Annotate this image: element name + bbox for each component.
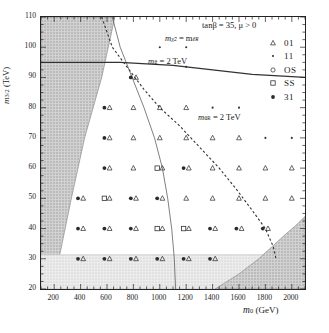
marker-01	[239, 226, 244, 231]
marker-01	[266, 226, 271, 231]
x-axis-label: m0 (GeV)	[243, 305, 278, 315]
legend-item: 31	[267, 90, 325, 104]
marker-01	[184, 135, 189, 140]
marker-SS	[181, 226, 185, 230]
marker-11	[159, 46, 161, 48]
y-axis-label-sub: 3/2	[3, 89, 10, 97]
x-tick-label: 800	[122, 293, 142, 302]
marker-01	[210, 166, 215, 171]
marker-31	[208, 227, 212, 231]
marker-01	[131, 166, 136, 171]
legend-item: SS	[267, 77, 325, 91]
legend-marker-OS	[267, 64, 284, 76]
marker-11	[264, 137, 266, 139]
marker-01	[210, 196, 215, 201]
marker-01	[81, 196, 86, 201]
marker-31	[182, 257, 186, 261]
marker-11	[291, 137, 293, 139]
x-axis-label-sub: 0	[250, 307, 253, 314]
legend-label: 01	[284, 38, 294, 48]
marker-01	[134, 196, 139, 201]
marker-01	[289, 166, 294, 171]
legend-label: 11	[284, 51, 294, 61]
x-tick-label: 2000	[281, 293, 301, 302]
marker-01	[237, 196, 242, 201]
marker-31	[261, 227, 265, 231]
marker-31	[155, 196, 159, 200]
marker-01	[289, 196, 294, 201]
y-tick-label: 100	[14, 41, 36, 50]
marker-01	[107, 226, 112, 231]
curve-label-gluino: mg̃ = 2 TeV	[148, 56, 187, 66]
marker-31	[235, 227, 239, 231]
data-points	[76, 46, 294, 261]
y-tick-label: 20	[14, 283, 36, 292]
legend-marker-11	[267, 50, 284, 62]
y-tick-label: 90	[14, 71, 36, 80]
marker-01	[107, 196, 112, 201]
y-tick-label: 70	[14, 132, 36, 141]
marker-01	[237, 166, 242, 171]
marker-31	[103, 257, 107, 261]
marker-01	[157, 135, 162, 140]
y-tick-label: 40	[14, 223, 36, 232]
y-axis-label: m3/2 (TeV)	[1, 90, 11, 104]
marker-01	[131, 135, 136, 140]
marker-01	[107, 166, 112, 171]
marker-SS	[102, 196, 106, 200]
marker-01	[160, 196, 165, 201]
marker-31	[208, 257, 212, 261]
marker-01	[184, 196, 189, 201]
chi2-label-sub4: R	[195, 36, 198, 42]
marker-31	[76, 227, 80, 231]
marker-SS	[155, 166, 159, 170]
marker-01	[184, 105, 189, 110]
x-tick-label: 1400	[202, 293, 222, 302]
legend-item: 01	[267, 36, 325, 50]
marker-31	[103, 106, 107, 110]
marker-31	[76, 257, 80, 261]
marker-11	[272, 55, 274, 57]
marker-01	[186, 166, 191, 171]
marker-11	[238, 107, 240, 109]
marker-01	[213, 226, 218, 231]
y-tick-label: 80	[14, 102, 36, 111]
x-tick-label: 1800	[254, 293, 274, 302]
legend-marker-31	[267, 91, 284, 103]
marker-11	[212, 107, 214, 109]
x-tick-label: 200	[43, 293, 63, 302]
y-tick-label: 60	[14, 162, 36, 171]
marker-01	[186, 226, 191, 231]
figure: 200400600800100012001400160018002000 203…	[0, 0, 329, 333]
marker-OS	[271, 68, 275, 72]
marker-31	[129, 76, 133, 80]
marker-01	[107, 105, 112, 110]
gluino-label-eq: = 2 TeV	[157, 56, 187, 66]
marker-31	[103, 136, 107, 140]
x-tick-label: 400	[70, 293, 90, 302]
y-tick-label: 110	[14, 11, 36, 20]
legend-marker-SS	[267, 77, 284, 89]
y-tick-label: 50	[14, 192, 36, 201]
y-tick-label: 30	[14, 253, 36, 262]
legend-item: 11	[267, 50, 325, 64]
y-axis-label-text: m	[1, 98, 11, 105]
marker-01	[263, 196, 268, 201]
marker-01	[271, 40, 276, 45]
legend-label: OS	[284, 65, 297, 75]
marker-31	[103, 227, 107, 231]
squark-label-eq: = 2 TeV	[211, 112, 241, 122]
marker-31	[129, 196, 133, 200]
marker-31	[103, 166, 107, 170]
x-tick-label: 1200	[175, 293, 195, 302]
marker-01	[210, 135, 215, 140]
y-axis-unit: (TeV)	[1, 67, 11, 87]
curve-dashed	[102, 17, 276, 259]
legend-marker-01	[267, 37, 284, 49]
marker-01	[107, 135, 112, 140]
marker-31	[271, 95, 275, 99]
marker-01	[263, 166, 268, 171]
marker-31	[182, 166, 186, 170]
x-axis-unit: (GeV)	[255, 305, 278, 315]
marker-31	[155, 257, 159, 261]
